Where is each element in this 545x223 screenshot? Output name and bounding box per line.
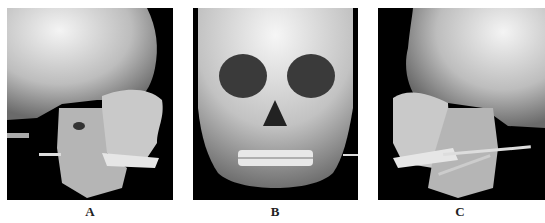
skull-lateral-left-graphic — [378, 8, 545, 200]
panel-a-lateral-skull-image — [7, 8, 173, 200]
skull-frontal-graphic — [193, 8, 358, 200]
panel-b-frontal-skull-image — [193, 8, 358, 200]
panel-c-label: C — [440, 204, 480, 220]
skull-lateral-right-graphic — [7, 8, 173, 200]
panel-a-label: A — [70, 204, 110, 220]
panel-c-lateral-skull-image — [378, 8, 545, 200]
panel-b-label: B — [255, 204, 295, 220]
